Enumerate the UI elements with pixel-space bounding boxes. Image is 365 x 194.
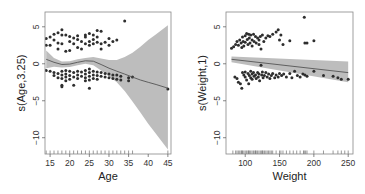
data-point <box>252 71 255 74</box>
data-point <box>282 43 285 46</box>
data-point <box>72 36 75 39</box>
y-axis-label: s(Age,3.25) <box>15 55 27 112</box>
data-point <box>68 70 71 73</box>
data-point <box>234 43 237 46</box>
data-point <box>236 77 239 80</box>
data-point <box>68 40 71 43</box>
data-point <box>296 74 299 77</box>
data-point <box>84 76 87 79</box>
data-point <box>115 78 118 81</box>
data-point <box>84 73 87 76</box>
data-point <box>241 36 244 39</box>
data-point <box>271 72 274 75</box>
data-point <box>92 70 95 73</box>
data-point <box>100 75 103 78</box>
data-point <box>238 39 241 42</box>
data-point <box>268 35 271 38</box>
data-point <box>60 70 63 73</box>
data-point <box>264 71 267 74</box>
data-point <box>322 74 325 77</box>
data-point <box>263 74 266 77</box>
data-point <box>273 76 276 79</box>
data-point <box>332 75 335 78</box>
data-point <box>247 82 250 85</box>
data-point <box>299 76 302 79</box>
data-point <box>127 76 130 79</box>
data-point <box>306 42 309 45</box>
x-tick-label: 250 <box>341 158 355 168</box>
data-point <box>340 78 343 81</box>
data-point <box>236 40 239 43</box>
data-point <box>257 76 260 79</box>
y-tick-label: 5 <box>31 24 41 29</box>
y-tick-label: 5 <box>212 24 222 29</box>
data-point <box>100 30 103 33</box>
data-point <box>255 42 258 45</box>
data-point <box>267 73 270 76</box>
data-point <box>232 45 235 48</box>
data-point <box>251 45 254 48</box>
data-point <box>60 28 63 31</box>
data-point <box>244 76 247 79</box>
data-point <box>260 48 263 51</box>
x-axis-label: Age <box>98 170 118 182</box>
data-point <box>108 76 111 79</box>
data-point <box>96 29 99 32</box>
data-point <box>72 42 75 45</box>
data-point <box>72 71 75 74</box>
data-point <box>60 33 63 36</box>
data-point <box>49 70 52 73</box>
plot-frame <box>226 12 353 154</box>
data-point <box>53 74 56 77</box>
data-point <box>119 79 122 82</box>
data-point <box>303 16 306 19</box>
data-point <box>88 71 91 74</box>
data-point <box>72 76 75 79</box>
data-point <box>80 40 83 43</box>
data-point <box>261 70 264 73</box>
panel-age: 1520253035404550−5−10Ages(Age,3.25) <box>15 12 173 182</box>
data-point <box>68 74 71 77</box>
data-point <box>80 75 83 78</box>
x-tick-label: 100 <box>238 158 252 168</box>
data-point <box>239 82 242 85</box>
y-tick-label: −10 <box>212 130 222 145</box>
x-tick-label: 25 <box>85 158 95 168</box>
data-point <box>72 84 75 87</box>
data-point <box>96 41 99 44</box>
data-point <box>275 73 278 76</box>
data-point <box>92 73 95 76</box>
data-point <box>108 37 111 40</box>
data-point <box>64 69 67 72</box>
data-point <box>262 40 265 43</box>
data-point <box>100 48 103 51</box>
x-tick-label: 20 <box>65 158 75 168</box>
data-point <box>261 33 264 36</box>
data-point <box>266 76 269 79</box>
x-tick-label: 15 <box>45 158 55 168</box>
data-point <box>60 42 63 45</box>
x-tick-label: 35 <box>124 158 134 168</box>
data-point <box>306 75 309 78</box>
data-point <box>88 87 91 90</box>
y-tick-label: −5 <box>31 96 41 106</box>
data-point <box>92 33 95 36</box>
data-point <box>240 87 243 90</box>
data-point <box>96 36 99 39</box>
data-point <box>258 79 261 82</box>
data-point <box>288 39 291 42</box>
data-point <box>277 76 280 79</box>
data-point <box>60 85 63 88</box>
data-point <box>312 39 315 42</box>
data-point <box>76 38 79 41</box>
data-point <box>57 72 60 75</box>
data-point <box>290 76 293 79</box>
data-point <box>84 42 87 45</box>
data-point <box>53 39 56 42</box>
data-point <box>84 69 87 72</box>
data-point <box>108 44 111 47</box>
data-point <box>96 70 99 73</box>
x-axis-label: Weight <box>272 170 306 182</box>
data-point <box>293 70 296 73</box>
data-point <box>76 46 79 49</box>
